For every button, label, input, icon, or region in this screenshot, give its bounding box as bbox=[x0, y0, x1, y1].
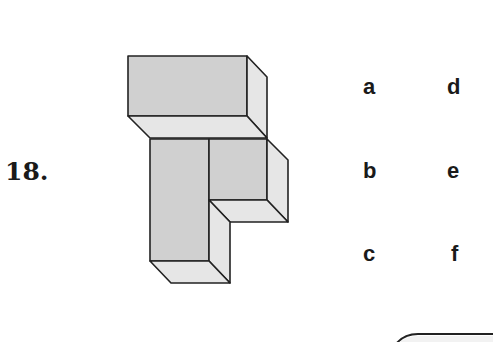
answer-box-corner bbox=[0, 0, 493, 342]
